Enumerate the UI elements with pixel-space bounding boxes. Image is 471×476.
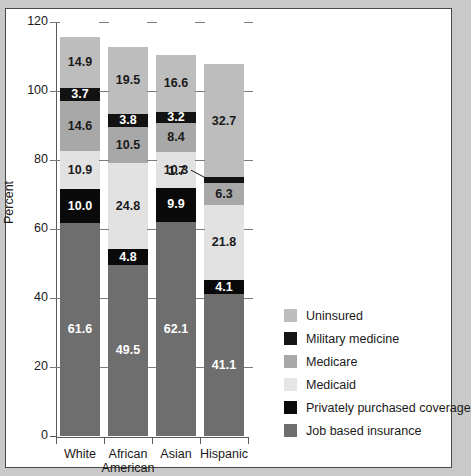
bar-segment[interactable]: 10.9 xyxy=(60,151,100,189)
segment-value-label: 32.7 xyxy=(212,115,236,128)
gridline-stub xyxy=(147,91,156,92)
y-tick-label: 0 xyxy=(8,428,48,442)
gridline-stub xyxy=(99,91,108,92)
segment-value-label: 62.1 xyxy=(164,323,188,336)
legend-swatch xyxy=(284,424,297,437)
x-tick-mark xyxy=(152,437,153,444)
gridline-stub xyxy=(99,367,108,368)
legend-swatch xyxy=(284,332,297,345)
legend-swatch xyxy=(284,378,297,391)
gridline-stub xyxy=(51,229,60,230)
bar-segment[interactable]: 3.7 xyxy=(60,88,100,101)
bar-segment[interactable]: 16.6 xyxy=(156,55,196,112)
gridline-stub xyxy=(99,22,108,23)
legend-label: Uninsured xyxy=(306,309,363,323)
legend-item[interactable]: Medicaid xyxy=(284,374,471,395)
segment-value-label: 14.9 xyxy=(68,56,92,69)
bar-segment[interactable]: 3.2 xyxy=(156,112,196,123)
legend-swatch xyxy=(284,309,297,322)
bar-segment[interactable]: 14.6 xyxy=(60,101,100,151)
segment-value-label: 6.3 xyxy=(215,188,232,201)
gridline-stub xyxy=(244,298,253,299)
gridline-stub xyxy=(195,367,204,368)
gridline-stub xyxy=(244,91,253,92)
bar-segment[interactable]: 32.7 xyxy=(204,64,244,177)
bar-segment[interactable]: 6.3 xyxy=(204,183,244,205)
legend-item[interactable]: Job based insurance xyxy=(284,420,471,441)
gridline-stub xyxy=(195,160,204,161)
stacked-bar[interactable]: 62.19.910.38.43.216.6 xyxy=(156,22,196,436)
y-tick-label: 80 xyxy=(8,152,48,166)
legend-label: Medicaid xyxy=(306,378,356,392)
bar-segment[interactable]: 24.8 xyxy=(108,163,148,249)
legend-item[interactable]: Privately purchased coverage xyxy=(284,397,471,418)
bar-segment[interactable]: 8.4 xyxy=(156,123,196,152)
stacked-bar[interactable]: 49.54.824.810.53.819.5 xyxy=(108,22,148,436)
gridline-stub xyxy=(244,229,253,230)
legend-swatch xyxy=(284,355,297,368)
segment-value-label: 8.4 xyxy=(167,131,184,144)
bar-segment[interactable]: 62.1 xyxy=(156,222,196,436)
legend-label: Privately purchased coverage xyxy=(306,401,471,415)
segment-value-label: 24.8 xyxy=(116,200,140,213)
bar-segment[interactable]: 10.0 xyxy=(60,189,100,224)
bar-segment[interactable] xyxy=(204,177,244,183)
x-tick-mark xyxy=(200,437,201,444)
bar-segment[interactable]: 10.5 xyxy=(108,127,148,163)
legend-item[interactable]: Military medicine xyxy=(284,328,471,349)
gridline-stub xyxy=(195,91,204,92)
gridline-stub xyxy=(147,298,156,299)
bar-segment[interactable]: 4.8 xyxy=(108,249,148,266)
gridline-stub xyxy=(99,298,108,299)
gridline-stub xyxy=(51,367,60,368)
segment-value-label: 41.1 xyxy=(212,359,236,372)
y-tick-label: 20 xyxy=(8,359,48,373)
bar-segment[interactable]: 19.5 xyxy=(108,47,148,114)
gridline-stub xyxy=(147,160,156,161)
legend-label: Job based insurance xyxy=(306,424,421,438)
bar-segment[interactable]: 14.9 xyxy=(60,37,100,88)
segment-value-label: 61.6 xyxy=(68,323,92,336)
segment-value-label: 9.9 xyxy=(167,198,184,211)
gridline-stub xyxy=(51,22,60,23)
segment-value-label: 3.2 xyxy=(167,111,184,124)
bar-segment[interactable]: 61.6 xyxy=(60,223,100,436)
x-tick-mark xyxy=(56,437,57,444)
segment-value-label: 4.1 xyxy=(215,281,232,294)
gridline-stub xyxy=(147,229,156,230)
legend-label: Military medicine xyxy=(306,332,399,346)
stacked-bar[interactable]: 41.14.121.86.332.7 xyxy=(204,22,244,436)
segment-value-label: 19.5 xyxy=(116,74,140,87)
segment-value-label: 4.8 xyxy=(119,251,136,264)
legend-item[interactable]: Medicare xyxy=(284,351,471,372)
gridline-stub xyxy=(244,22,253,23)
gridline-stub xyxy=(147,367,156,368)
bar-segment[interactable]: 21.8 xyxy=(204,205,244,280)
gridline-stub xyxy=(244,160,253,161)
segment-value-label: 49.5 xyxy=(116,344,140,357)
gridline-stub xyxy=(195,229,204,230)
gridline-stub xyxy=(99,160,108,161)
bar-segment[interactable]: 9.9 xyxy=(156,188,196,222)
segment-value-label: 10.0 xyxy=(68,200,92,213)
segment-value-label: 3.8 xyxy=(119,114,136,127)
y-axis-labels: 020406080100120 xyxy=(6,22,48,437)
x-tick-mark xyxy=(248,437,249,444)
bar-segment[interactable]: 49.5 xyxy=(108,265,148,436)
legend-item[interactable]: Uninsured xyxy=(284,305,471,326)
y-tick-label: 100 xyxy=(8,83,48,97)
gridline-stub xyxy=(147,22,156,23)
stacked-bar[interactable]: 61.610.010.914.63.714.9 xyxy=(60,22,100,436)
x-category-line: Hispanic xyxy=(188,447,260,461)
bar-segment[interactable]: 4.1 xyxy=(204,280,244,294)
segment-value-label: 14.6 xyxy=(68,120,92,133)
segment-value-label: 10.9 xyxy=(68,164,92,177)
y-tick-label: 120 xyxy=(8,14,48,28)
bar-segment[interactable]: 3.8 xyxy=(108,114,148,127)
gridline-stub xyxy=(244,367,253,368)
x-category-line: American xyxy=(92,461,164,475)
segment-value-label: 3.7 xyxy=(71,88,88,101)
bar-segment[interactable]: 41.1 xyxy=(204,294,244,436)
chart-frame: Percent 020406080100120 61.610.010.914.6… xyxy=(5,8,452,468)
segment-value-label: 16.6 xyxy=(164,77,188,90)
